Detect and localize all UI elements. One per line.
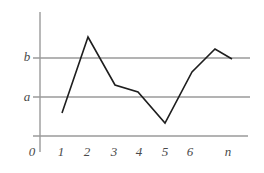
sequence-data-line	[62, 37, 232, 123]
x-tick-4: 4	[131, 145, 147, 158]
y-label-a: a	[20, 90, 34, 103]
x-tick-6: 6	[182, 145, 198, 158]
x-tick-1: 1	[53, 145, 69, 158]
x-tick-0: 0	[24, 145, 40, 158]
y-label-b: b	[20, 50, 34, 63]
sequence-plot-figure: b a 0 1 2 3 4 5 6 n	[0, 0, 264, 173]
x-tick-5: 5	[157, 145, 173, 158]
x-tick-2: 2	[79, 145, 95, 158]
x-tick-3: 3	[106, 145, 122, 158]
x-axis-variable-label: n	[220, 145, 236, 158]
